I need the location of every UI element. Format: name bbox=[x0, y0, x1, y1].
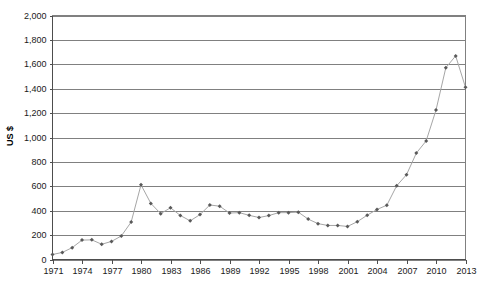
y-tick-label-1800: 1,800 bbox=[24, 35, 47, 45]
x-tick-label-1992: 1992 bbox=[249, 266, 269, 276]
y-tick-label-2000: 2,000 bbox=[24, 11, 47, 21]
y-tick-label-1000: 1,000 bbox=[24, 133, 47, 143]
y-tick-label-0: 0 bbox=[41, 255, 46, 265]
y-tick-label-1600: 1,600 bbox=[24, 59, 47, 69]
y-axis-title: US $ bbox=[5, 126, 15, 146]
y-tick-label-400: 400 bbox=[31, 206, 46, 216]
y-tick-label-800: 800 bbox=[31, 157, 46, 167]
y-tick-label-1200: 1,200 bbox=[24, 108, 47, 118]
x-tick-label-2010: 2010 bbox=[426, 266, 446, 276]
chart-background bbox=[0, 0, 483, 283]
x-tick-label-1995: 1995 bbox=[279, 266, 299, 276]
line-chart: 02004006008001,0001,2001,4001,6001,8002,… bbox=[0, 0, 483, 283]
x-axis-tick-labels: 1971197419771980198319861989199219951998… bbox=[43, 266, 476, 276]
x-tick-label-2004: 2004 bbox=[367, 266, 387, 276]
y-tick-label-1400: 1,400 bbox=[24, 84, 47, 94]
x-tick-label-2007: 2007 bbox=[397, 266, 417, 276]
x-tick-label-1971: 1971 bbox=[43, 266, 63, 276]
x-tick-label-1998: 1998 bbox=[308, 266, 328, 276]
x-tick-label-2001: 2001 bbox=[338, 266, 358, 276]
x-tick-label-1986: 1986 bbox=[190, 266, 210, 276]
x-tick-label-1989: 1989 bbox=[220, 266, 240, 276]
y-tick-label-200: 200 bbox=[31, 230, 46, 240]
x-tick-label-1983: 1983 bbox=[161, 266, 181, 276]
x-tick-label-1974: 1974 bbox=[72, 266, 92, 276]
x-tick-label-1980: 1980 bbox=[131, 266, 151, 276]
y-tick-label-600: 600 bbox=[31, 181, 46, 191]
x-tick-label-2013: 2013 bbox=[456, 266, 476, 276]
x-tick-label-1977: 1977 bbox=[102, 266, 122, 276]
chart-container: 02004006008001,0001,2001,4001,6001,8002,… bbox=[0, 0, 483, 283]
